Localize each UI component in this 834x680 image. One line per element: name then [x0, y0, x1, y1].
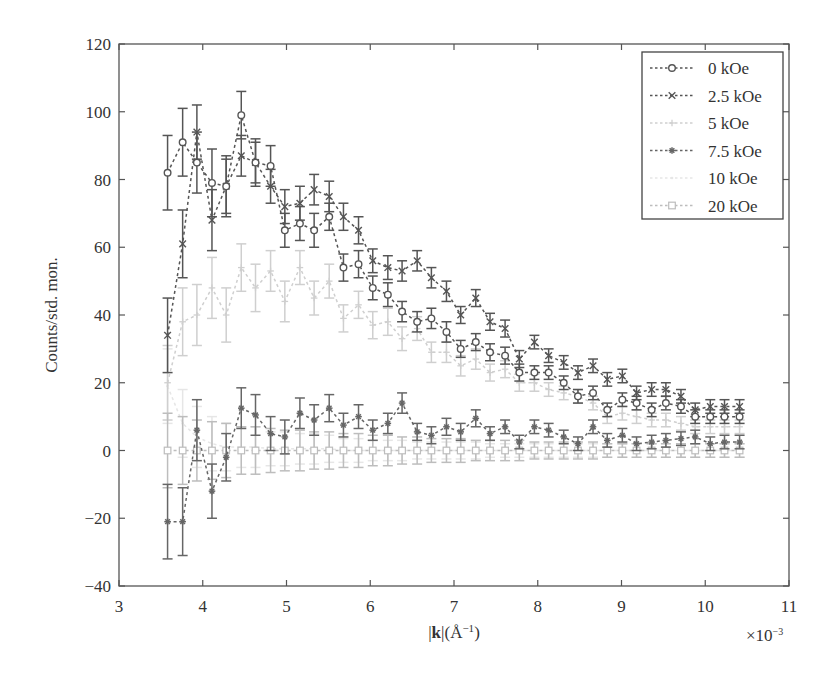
- data-point-marker: [707, 440, 714, 447]
- data-point-marker: [619, 396, 626, 403]
- data-point-marker: [560, 390, 567, 397]
- data-point-marker: [575, 393, 582, 400]
- data-point-marker: [164, 379, 171, 386]
- data-point-marker: [385, 447, 392, 454]
- data-point-marker: [369, 447, 376, 454]
- data-point-marker: [721, 439, 728, 446]
- data-point-marker: [457, 447, 464, 454]
- legend-marker-square-icon: [669, 202, 676, 209]
- data-point-marker: [238, 112, 245, 119]
- data-point-marker: [648, 407, 655, 414]
- legend-label: 10 kOe: [708, 169, 758, 188]
- data-point-marker: [531, 379, 538, 386]
- data-point-marker: [428, 315, 435, 322]
- data-point-marker: [355, 447, 362, 454]
- data-point-marker: [238, 405, 245, 412]
- data-point-marker: [502, 366, 509, 373]
- data-point-marker: [663, 437, 670, 444]
- data-point-marker: [355, 413, 362, 420]
- data-point-marker: [267, 430, 274, 437]
- data-point-marker: [385, 291, 392, 298]
- data-point-marker: [443, 423, 450, 430]
- data-point-marker: [487, 349, 494, 356]
- y-tick-label: 80: [94, 171, 111, 190]
- x-tick-label: 6: [366, 597, 375, 616]
- series-7_5-koe: [163, 388, 745, 559]
- data-point-marker: [340, 315, 347, 322]
- data-point-marker: [194, 312, 201, 319]
- data-point-marker: [209, 180, 216, 187]
- x-tick-label: 10: [697, 597, 714, 616]
- data-point-marker: [179, 447, 186, 454]
- data-point-marker: [194, 159, 201, 166]
- data-point-marker: [560, 447, 567, 454]
- data-point-marker: [590, 400, 597, 407]
- data-point-marker: [209, 447, 216, 454]
- data-point-marker: [531, 423, 538, 430]
- data-point-marker: [326, 405, 333, 412]
- data-point-marker: [472, 447, 479, 454]
- data-point-marker: [516, 369, 523, 376]
- x-tick-label: 8: [534, 597, 543, 616]
- data-point-marker: [590, 390, 597, 397]
- data-point-marker: [545, 427, 552, 434]
- x-axis-multiplier: ×10−3: [746, 626, 783, 645]
- data-point-marker: [369, 285, 376, 292]
- data-point-marker: [692, 413, 699, 420]
- data-point-marker: [678, 403, 685, 410]
- data-point-marker: [282, 298, 289, 305]
- data-point-marker: [736, 413, 743, 420]
- legend-label: 0 kOe: [708, 59, 749, 78]
- data-point-marker: [311, 447, 318, 454]
- data-point-marker: [545, 447, 552, 454]
- series-line: [168, 403, 740, 522]
- series-5-koe: [163, 244, 745, 434]
- x-axis-title: |k|(Å−1): [428, 622, 480, 642]
- data-point-marker: [238, 447, 245, 454]
- x-tick-label: 7: [450, 597, 459, 616]
- data-point-marker: [516, 439, 523, 446]
- data-point-marker: [369, 427, 376, 434]
- data-point-marker: [487, 430, 494, 437]
- data-point-marker: [443, 349, 450, 356]
- data-point-marker: [707, 423, 714, 430]
- series-10-koe: [163, 349, 745, 471]
- data-point-marker: [678, 435, 685, 442]
- data-point-marker: [223, 312, 230, 319]
- data-point-marker: [428, 447, 435, 454]
- chart: 34567891011−40−20020406080100120 Counts/…: [0, 0, 834, 680]
- data-point-marker: [443, 329, 450, 336]
- data-point-marker: [678, 447, 685, 454]
- y-tick-label: −40: [84, 577, 111, 596]
- data-point-marker: [457, 429, 464, 436]
- y-tick-label: 40: [94, 306, 111, 325]
- data-point-marker: [297, 220, 304, 227]
- data-point-marker: [297, 447, 304, 454]
- data-point-marker: [633, 400, 640, 407]
- data-point-marker: [252, 447, 259, 454]
- legend-marker-circle-icon: [669, 65, 676, 72]
- data-point-marker: [663, 417, 670, 424]
- y-tick-label: 120: [86, 35, 112, 54]
- data-point-marker: [692, 434, 699, 441]
- data-point-marker: [399, 335, 406, 342]
- data-point-marker: [223, 183, 230, 190]
- data-point-marker: [560, 434, 567, 441]
- data-point-marker: [590, 447, 597, 454]
- data-point-marker: [297, 264, 304, 271]
- data-point-marker: [619, 410, 626, 417]
- data-point-marker: [164, 447, 171, 454]
- data-point-marker: [399, 400, 406, 407]
- data-point-marker: [326, 447, 333, 454]
- data-point-marker: [633, 440, 640, 447]
- data-point-marker: [487, 447, 494, 454]
- data-point-marker: [252, 412, 259, 419]
- data-point-marker: [707, 413, 714, 420]
- data-point-marker: [604, 437, 611, 444]
- y-tick-label: −20: [84, 509, 111, 528]
- legend-label: 5 kOe: [708, 114, 749, 133]
- data-point-marker: [648, 417, 655, 424]
- data-point-marker: [385, 420, 392, 427]
- data-point-marker: [443, 447, 450, 454]
- x-tick-label: 4: [199, 597, 208, 616]
